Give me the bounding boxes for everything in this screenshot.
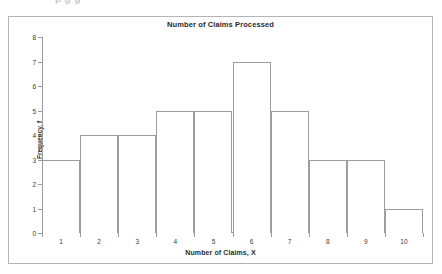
x-axis-tick-label: 3 <box>135 238 139 245</box>
x-axis-tick <box>194 233 195 237</box>
plot-area: 012345678 12345678910 <box>42 37 423 233</box>
x-axis-tick <box>233 233 234 237</box>
x-axis-tick <box>423 233 424 237</box>
x-axis-tick <box>385 233 386 237</box>
y-axis-tick-label: 6 <box>32 83 36 90</box>
x-axis-tick-label: 8 <box>326 238 330 245</box>
bar <box>309 160 347 234</box>
x-axis-tick <box>42 233 43 237</box>
x-axis-tick-label: 10 <box>400 238 407 245</box>
chart-title: Number of Claims Processed <box>9 20 432 29</box>
bar <box>233 62 271 234</box>
y-axis-tick-label: 5 <box>32 107 36 114</box>
x-axis-tick-label: 2 <box>97 238 101 245</box>
y-axis-tick-label: 8 <box>32 34 36 41</box>
y-axis-tick-label: 3 <box>32 156 36 163</box>
x-axis-tick <box>347 233 348 237</box>
bar <box>42 160 80 234</box>
x-axis-tick <box>309 233 310 237</box>
y-axis-tick-label: 1 <box>32 205 36 212</box>
x-axis-tick-label: 7 <box>288 238 292 245</box>
x-axis-tick <box>118 233 119 237</box>
y-axis-tick-label: 4 <box>32 132 36 139</box>
bar <box>156 111 194 234</box>
x-axis-tick-label: 5 <box>212 238 216 245</box>
y-axis-tick-label: 0 <box>32 230 36 237</box>
bar <box>347 160 385 234</box>
bar <box>80 135 118 233</box>
x-axis-tick-label: 4 <box>174 238 178 245</box>
x-axis-tick <box>156 233 157 237</box>
x-axis-tick-label: 9 <box>364 238 368 245</box>
cutoff-text-strip: p g g <box>0 0 442 13</box>
y-axis-tick-label: 7 <box>32 58 36 65</box>
bar <box>271 111 309 234</box>
bar <box>194 111 232 234</box>
y-axis-tick <box>38 62 42 63</box>
chart-frame: Number of Claims Processed Frequency, f … <box>8 16 433 264</box>
y-axis-tick <box>38 111 42 112</box>
x-axis-tick <box>80 233 81 237</box>
x-axis-tick <box>271 233 272 237</box>
y-axis-tick <box>38 86 42 87</box>
x-axis-tick-label: 6 <box>250 238 254 245</box>
y-axis-tick <box>38 37 42 38</box>
x-axis-tick-label: 1 <box>59 238 63 245</box>
y-axis-tick-label: 2 <box>32 181 36 188</box>
x-axis-title: Number of Claims, X <box>9 249 432 256</box>
bar <box>118 135 156 233</box>
y-axis-tick <box>38 135 42 136</box>
bar <box>385 209 423 234</box>
cutoff-text: p g g <box>55 0 80 4</box>
